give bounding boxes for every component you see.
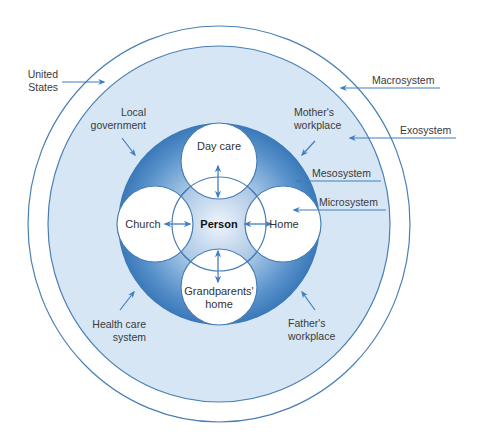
label-microsystem: Microsystem	[319, 196, 378, 209]
label-united-states: United States	[18, 68, 58, 93]
node-day-care: Day care	[184, 140, 254, 153]
label-mesosystem: Mesosystem	[312, 167, 371, 180]
node-church: Church	[120, 218, 166, 231]
label-exosystem: Exosystem	[400, 124, 451, 137]
node-home: Home	[259, 218, 309, 231]
label-fathers-workplace: Father's workplace	[288, 317, 335, 342]
label-local-government: Local government	[86, 106, 146, 131]
label-mothers-workplace: Mother's workplace	[294, 106, 341, 131]
daycare-circle	[181, 123, 257, 199]
node-grandparents-home: Grandparents' home	[177, 285, 261, 311]
label-health-care-system: Health care system	[84, 318, 146, 343]
label-macrosystem: Macrosystem	[372, 74, 434, 87]
node-person: Person	[189, 218, 249, 231]
